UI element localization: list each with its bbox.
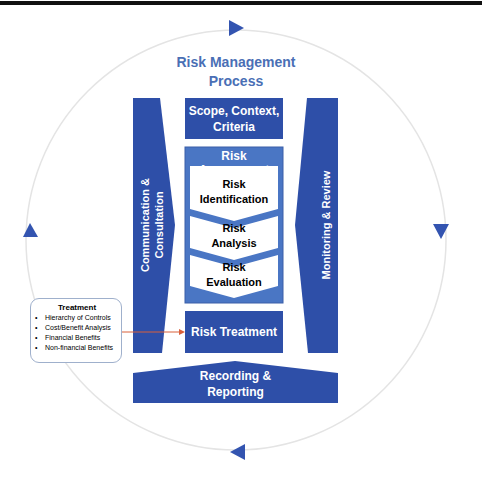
cycle-arrow-left-icon (230, 444, 245, 460)
diagram-title: Risk Management Process (160, 53, 312, 91)
step-evaluation: Risk Evaluation (190, 260, 278, 290)
scope-line-1: Scope, Context, (189, 103, 280, 119)
recording-line-1: Recording & (133, 368, 338, 384)
cycle-arrow-up-icon (23, 223, 38, 237)
scope-line-2: Criteria (189, 119, 280, 135)
list-item: Hierarchy of Controls (35, 313, 119, 323)
monitoring-label: Monitoring & Review (319, 160, 333, 290)
step-line: Risk (190, 260, 278, 275)
step-identification: Risk Identification (190, 177, 278, 207)
step-line: Evaluation (190, 275, 278, 290)
step-line: Risk (190, 221, 278, 236)
recording-label: Recording & Reporting (133, 368, 338, 400)
step-analysis: Risk Analysis (190, 221, 278, 251)
step-line: Identification (190, 192, 278, 207)
title-line-2: Process (160, 72, 312, 91)
risk-assessment-label: Risk Assessment (185, 149, 283, 177)
treatment-callout-title: Treatment (35, 303, 119, 313)
risk-treatment-label: Risk Treatment (185, 311, 283, 353)
communication-line-2: Consultation (152, 160, 166, 290)
list-item: Non-financial Benefits (35, 343, 119, 353)
communication-label: Communication & Consultation (138, 160, 168, 290)
cycle-arrow-right-icon (229, 20, 244, 36)
step-line: Risk (190, 177, 278, 192)
treatment-list: Hierarchy of Controls Cost/Benefit Analy… (35, 313, 119, 353)
list-item: Financial Benefits (35, 333, 119, 343)
treatment-callout: Treatment Hierarchy of Controls Cost/Ben… (30, 298, 122, 363)
title-line-1: Risk Management (160, 53, 312, 72)
scope-label: Scope, Context,Criteria (185, 98, 283, 139)
list-item: Cost/Benefit Analysis (35, 323, 119, 333)
step-line: Analysis (190, 236, 278, 251)
communication-line-1: Communication & (138, 160, 152, 290)
recording-line-2: Reporting (133, 384, 338, 400)
